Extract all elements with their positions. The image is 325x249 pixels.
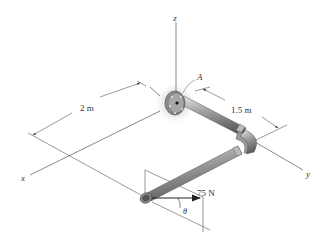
z-axis-label: z	[172, 13, 177, 23]
bolt-icon	[181, 108, 183, 110]
angle-theta-label: θ	[183, 207, 187, 216]
pipe-diagram: z x y A 2 m 1.5 m 75 N θ	[0, 0, 325, 249]
dim-ext-15-bottom	[256, 125, 287, 140]
y-axis-label: y	[305, 169, 310, 179]
bolt-icon	[174, 112, 176, 114]
dim-line-2m-a	[100, 83, 140, 97]
dimension-2m: 2 m	[80, 103, 94, 113]
dimension-1-5m: 1.5 m	[231, 105, 252, 115]
bolt-icon	[169, 105, 171, 107]
dim-line-2m-b	[33, 113, 72, 135]
support-label-A: A	[196, 72, 203, 82]
theta-arc	[178, 198, 180, 208]
dim-line-15-b	[262, 117, 278, 128]
dim-ext-15-top	[195, 87, 210, 91]
load-plane-edge-bottom	[152, 202, 210, 230]
dim-line-15-a	[203, 89, 225, 100]
x-axis	[30, 111, 160, 175]
flange-center-point	[175, 101, 178, 104]
y-axis	[255, 142, 303, 170]
x-axis-label: x	[20, 173, 25, 183]
bolt-icon	[180, 96, 182, 98]
dim-ext-2m-bottom	[28, 133, 150, 200]
force-label: 75 N	[197, 188, 215, 198]
bolt-icon	[171, 96, 173, 98]
